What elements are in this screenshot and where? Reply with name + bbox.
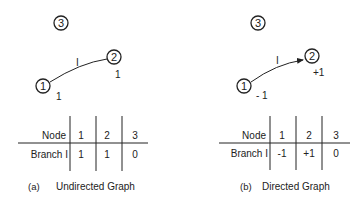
- table-row-label: Branch I: [231, 148, 268, 159]
- table-cell: 0: [333, 148, 339, 159]
- table-col: 3: [132, 130, 138, 141]
- node-1-value: - 1: [256, 90, 268, 101]
- table-cell: -1: [278, 148, 287, 159]
- table-header-label: Node: [42, 130, 66, 141]
- node-2: 2: [107, 50, 121, 64]
- node-1-value: 1: [56, 91, 62, 102]
- caption-letter: (b): [240, 181, 252, 192]
- node-1: 1: [36, 79, 50, 93]
- svg-text:1: 1: [40, 80, 46, 92]
- svg-text:2: 2: [111, 51, 117, 63]
- node-2: 2: [305, 49, 319, 63]
- caption-letter: (a): [28, 181, 40, 192]
- table-col: 2: [104, 130, 110, 141]
- table-header-label: Node: [242, 130, 266, 141]
- svg-text:3: 3: [255, 17, 261, 29]
- table-col: 1: [78, 130, 84, 141]
- branch-label: I: [276, 55, 279, 66]
- node-2-value: +1: [313, 67, 325, 78]
- svg-text:2: 2: [309, 50, 315, 62]
- node-3: 3: [54, 16, 68, 30]
- branch-label: I: [76, 57, 79, 68]
- svg-text:1: 1: [241, 80, 247, 92]
- table-cell: 1: [78, 149, 84, 160]
- table-cell: 0: [132, 149, 138, 160]
- panel-a-graph: 3 I 1 2 1 1: [36, 16, 121, 102]
- svg-text:3: 3: [58, 17, 64, 29]
- caption: Undirected Graph: [56, 181, 135, 192]
- node-2-value: 1: [115, 69, 121, 80]
- table-col: 1: [279, 130, 285, 141]
- panel-b-incidence-table: Node 1 2 3 Branch I -1 +1 0: [219, 116, 350, 170]
- node-1: 1: [237, 79, 251, 93]
- graph-diagrams: 3 I 1 2 1 1 Node 1 2 3 Branch I 1 1 0 (a…: [0, 0, 364, 202]
- table-col: 2: [306, 130, 312, 141]
- panel-a-incidence-table: Node 1 2 3 Branch I 1 1 0: [18, 116, 148, 171]
- panel-b-graph: 3 I 1 2 - 1 +1: [237, 16, 325, 101]
- node-3: 3: [251, 16, 265, 30]
- table-cell: 1: [104, 149, 110, 160]
- table-col: 3: [333, 130, 339, 141]
- table-row-label: Branch I: [31, 149, 68, 160]
- caption: Directed Graph: [262, 181, 330, 192]
- table-cell: +1: [303, 148, 315, 159]
